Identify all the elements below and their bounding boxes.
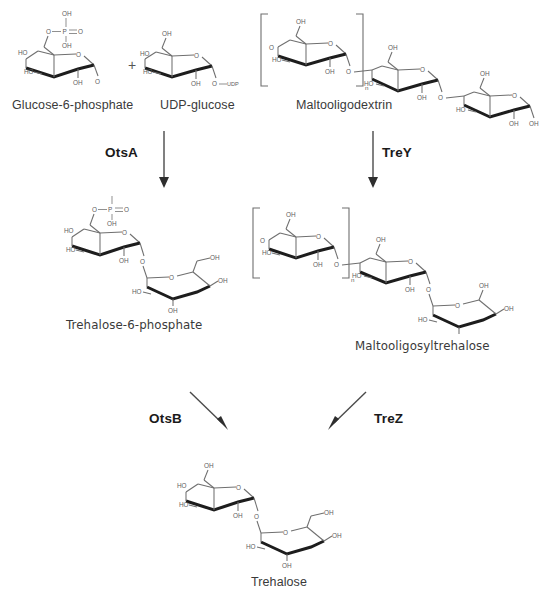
compound-label-trehalose: Trehalose [251,575,307,589]
atom-o-ring: O [283,529,288,536]
atom-ho: HO [132,288,142,295]
atom-oh: OH [504,305,514,312]
atom-o-ring: O [408,258,413,265]
atom-oh: OH [325,68,335,75]
enzyme-label-otsa: OtsA [105,145,138,160]
atom-oh: OH [210,254,220,261]
atom-oh: OH [313,261,323,268]
enzyme-label-trez: TreZ [374,411,403,426]
atom-o-glycosidic: O [346,68,351,75]
atom-o-glycosidic: O [426,286,431,293]
atom-o-ring: O [76,51,81,58]
enzyme-label-otsb: OtsB [149,411,182,426]
atom-oh: OH [233,512,243,519]
atom-oh: OH [191,80,201,87]
atom-p: P [63,28,67,35]
atom-o: O [212,80,217,87]
atom-oh: OH [62,10,72,17]
atom-oh: OH [73,79,83,86]
atom-oh: OH [168,307,178,314]
atom-ho: HO [18,49,28,56]
atom-ho: HO [456,106,466,113]
atom-o: O [46,28,51,35]
atom-oh: OH [376,236,386,243]
atom-o-ring: O [328,40,333,47]
atom-o-glycosidic: O [140,258,145,265]
arrow-trey [364,131,382,189]
plus-operator: + [128,57,136,73]
atom-o-ring: O [194,52,199,59]
atom-oh: OH [218,277,228,284]
atom-ho: HO [177,482,187,489]
atom-p: P [108,206,112,213]
atom-oh: OH [479,282,489,289]
structure-maltooligodextrin: n OH O O HO OH O OH [258,8,543,136]
atom-oh: OH [529,120,539,127]
compound-label-udp-glucose: UDP-glucose [160,98,235,112]
atom-oh: OH [62,42,72,49]
atom-oh: OH [332,532,342,539]
atom-ho: HO [24,68,34,75]
atom-oh: OH [282,562,292,569]
atom-oh: OH [296,18,306,25]
atom-o-ring: O [420,66,425,73]
atom-o: O [95,78,100,85]
atom-udp: UDP [227,81,239,87]
arrow-otsa [155,131,173,189]
atom-o-glycosidic: O [438,94,443,101]
atom-o-ring: O [169,274,174,281]
compound-label-maltooligodextrin: Maltooligodextrin [296,98,392,112]
atom-ho: HO [140,50,150,57]
atom-oh: OH [417,94,427,101]
atom-ho: HO [418,316,428,323]
atom-ho: HO [352,272,362,279]
atom-o-glycosidic: O [334,261,339,268]
atom-o: O [124,206,129,213]
atom-o-glycosidic: O [254,513,259,520]
atom-ho: HO [364,80,374,87]
atom-ho: HO [246,543,256,550]
enzyme-label-trey: TreY [382,145,412,160]
structure-trehalose-6-phosphate: P O O OH O HO HO OH O [50,196,235,314]
atom-o-ring: O [455,302,460,309]
atom-oh: OH [509,120,519,127]
atom-oh: OH [204,462,214,469]
atom-o-ring: O [512,92,517,99]
atom-o: O [269,44,274,51]
atom-o-ring: O [316,233,321,240]
atom-oh: OH [286,211,296,218]
compound-label-maltooligosyltrehalose: Maltooligosyltrehalose [355,339,490,353]
atom-ho: HO [64,227,74,234]
atom-ho: HO [272,56,282,63]
atom-o-ring: O [122,229,127,236]
compound-label-trehalose-6-phosphate: Trehalose-6-phosphate [66,318,202,332]
atom-ho: HO [262,249,272,256]
structure-trehalose: OH O HO HO OH O O [166,458,366,568]
atom-o: O [260,237,265,244]
atom-o-ring: O [236,484,241,491]
structure-udp-glucose: OH O HO HO OH O UDP [140,26,250,98]
atom-ho: HO [66,246,76,253]
atom-o: O [78,28,83,35]
compound-label-glucose-6-phosphate: Glucose-6-phosphate [12,98,133,112]
atom-ho: HO [179,501,189,508]
arrow-trez [322,390,368,434]
atom-oh: OH [480,70,490,77]
pathway-diagram: OH P O O OH O HO HO [0,0,551,604]
structure-maltooligosyltrehalose: n OH O O HO OH O OH [248,202,538,330]
structure-glucose-6-phosphate: OH P O O OH O HO HO [18,6,138,98]
atom-oh: OH [405,286,415,293]
arrow-otsb [188,390,234,434]
atom-oh: OH [107,220,117,227]
atom-oh: OH [162,30,172,37]
atom-oh: OH [324,509,334,516]
atom-oh: OH [119,257,129,264]
atom-o: O [92,206,97,213]
atom-ho: HO [143,68,153,75]
atom-oh: OH [388,44,398,51]
